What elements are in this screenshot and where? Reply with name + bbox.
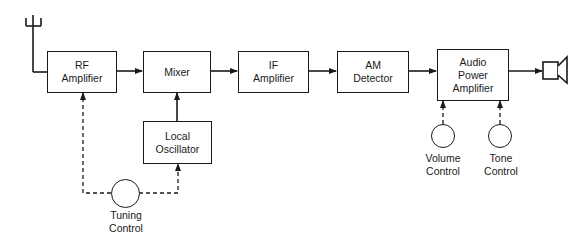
- tone-label-line2: Control: [484, 165, 518, 178]
- tuning-control-knob: [111, 179, 140, 208]
- am-detector-line2: Detector: [353, 72, 393, 85]
- antenna-icon: [26, 15, 47, 72]
- am-detector-line1: AM: [365, 59, 381, 72]
- if-amplifier-block: IF Amplifier: [238, 51, 309, 93]
- tone-label-line1: Tone: [484, 152, 518, 165]
- mixer-label: Mixer: [164, 66, 190, 79]
- am-detector-block: AM Detector: [337, 51, 409, 93]
- volume-control-knob: [431, 124, 455, 148]
- audio-line2: Power: [458, 69, 488, 82]
- audio-line1: Audio: [460, 56, 487, 69]
- mixer-block: Mixer: [143, 51, 211, 93]
- audio-power-amplifier-block: Audio Power Amplifier: [437, 49, 509, 101]
- tuning-to-lo-dashed: [139, 164, 178, 193]
- tuning-control-label: Tuning Control: [109, 209, 143, 235]
- rf-amplifier-block: RF Amplifier: [47, 51, 117, 93]
- tuning-label-line1: Tuning: [109, 209, 143, 222]
- volume-label-line2: Control: [425, 165, 460, 178]
- volume-control-label: Volume Control: [425, 152, 460, 178]
- tone-control-label: Tone Control: [484, 152, 518, 178]
- tuning-label-line2: Control: [109, 222, 143, 235]
- volume-label-line1: Volume: [425, 152, 460, 165]
- tone-control-knob: [488, 124, 512, 148]
- speaker-icon: [543, 57, 567, 83]
- if-amplifier-line1: IF: [269, 59, 278, 72]
- local-oscillator-block: Local Oscillator: [143, 121, 212, 164]
- local-oscillator-line1: Local: [165, 130, 190, 143]
- local-oscillator-line2: Oscillator: [156, 143, 200, 156]
- tuning-to-rf-dashed: [83, 93, 111, 193]
- audio-line3: Amplifier: [453, 82, 494, 95]
- rf-amplifier-line2: Amplifier: [62, 72, 103, 85]
- rf-amplifier-line1: RF: [75, 59, 89, 72]
- wiring-layer: [0, 0, 581, 235]
- if-amplifier-line2: Amplifier: [253, 72, 294, 85]
